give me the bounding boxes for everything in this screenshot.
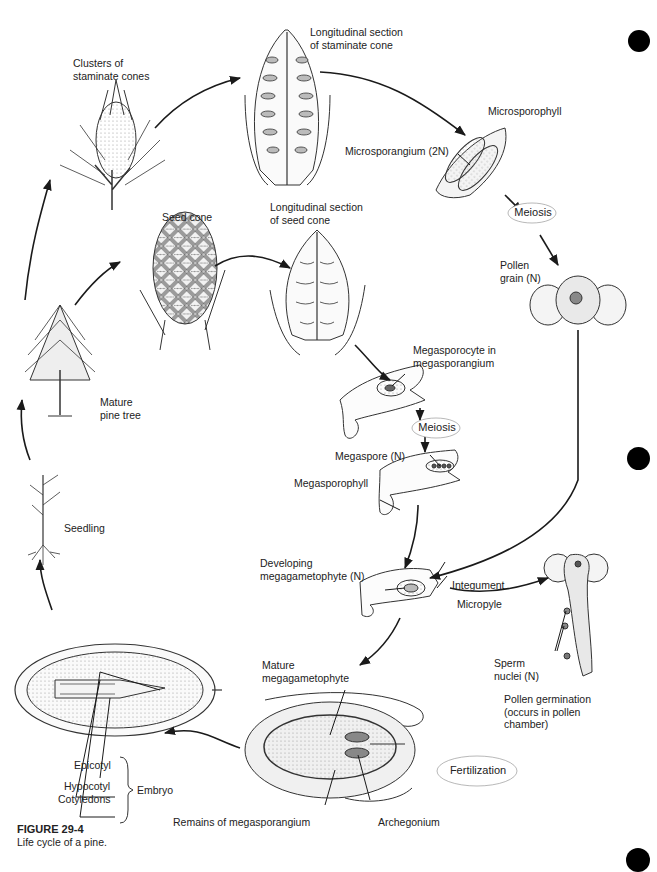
figure-number: FIGURE 29-4 xyxy=(17,823,84,835)
label-pollen-grain: Pollen grain (N) xyxy=(500,259,541,284)
registration-mark-top xyxy=(628,30,650,52)
developing-megagametophyte-drawing xyxy=(360,569,438,617)
pollen-germination-drawing xyxy=(544,554,608,676)
mature-ovule-drawing xyxy=(245,693,423,802)
label-microsporangium: Microsporangium (2N) xyxy=(345,145,449,158)
label-epicotyl: Epicotyl xyxy=(74,759,111,772)
label-micropyle: Micropyle xyxy=(457,598,502,611)
staminate-cone-section-drawing xyxy=(245,30,330,185)
registration-mark-middle xyxy=(627,447,650,470)
label-staminate-section: Longitudinal section of staminate cone xyxy=(310,26,403,51)
label-seed-cone: Seed cone xyxy=(162,211,212,224)
label-fertilization: Fertilization xyxy=(445,764,511,776)
label-meiosis-1: Meiosis xyxy=(512,206,554,218)
label-remains-megasporangium: Remains of megasporangium xyxy=(173,816,310,829)
embryo-bracket xyxy=(120,757,133,823)
label-meiosis-2: Meiosis xyxy=(414,421,460,433)
seed-embryo-drawing xyxy=(15,644,222,736)
label-cotyledons: Cotyledons xyxy=(58,793,111,806)
label-megasporophyll: Megasporophyll xyxy=(294,477,368,490)
label-megaspore: Megaspore (N) xyxy=(335,450,405,463)
mature-pine-tree-drawing xyxy=(25,305,95,416)
label-sperm-nuclei: Sperm nuclei (N) xyxy=(494,657,539,682)
pollen-grain-drawing xyxy=(530,276,626,325)
label-staminate-clusters: Clusters of staminate cones xyxy=(73,57,149,82)
figure-caption: Life cycle of a pine. xyxy=(17,836,107,848)
label-mature-megagametophyte: Mature megagametophyte xyxy=(262,659,349,684)
label-seedling: Seedling xyxy=(64,522,105,535)
label-integument: Integument xyxy=(452,579,505,592)
seed-cone-section-drawing xyxy=(270,230,365,355)
microsporophyll-drawing xyxy=(436,128,506,198)
label-megasporocyte: Megasporocyte in megasporangium xyxy=(413,344,496,369)
seedling-drawing xyxy=(28,475,60,565)
label-microsporophyll: Microsporophyll xyxy=(488,105,562,118)
label-archegonium: Archegonium xyxy=(378,816,440,829)
label-developing-megagametophyte: Developing megagametophyte (N) xyxy=(260,557,364,582)
label-hypocotyl: Hypocotyl xyxy=(64,780,110,793)
label-embryo: Embryo xyxy=(137,784,173,797)
label-pollen-germination: Pollen germination (occurs in pollen cha… xyxy=(504,693,591,731)
staminate-cone-cluster-drawing xyxy=(60,80,165,210)
label-mature-tree: Mature pine tree xyxy=(100,396,141,421)
label-seed-section: Longitudinal section of seed cone xyxy=(270,201,363,226)
registration-mark-bottom xyxy=(626,848,650,872)
seed-cone-drawing xyxy=(140,212,225,350)
